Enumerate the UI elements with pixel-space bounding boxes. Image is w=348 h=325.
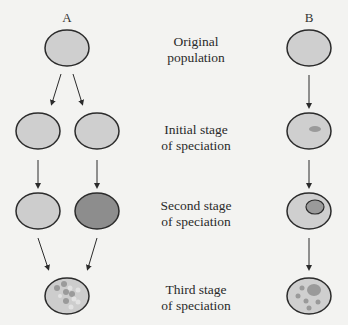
third-population-b <box>287 278 331 314</box>
original-population-a <box>45 30 89 66</box>
second-population-a-left <box>16 193 60 229</box>
third-population-a-mixed <box>45 278 89 314</box>
original-population-b <box>287 30 331 66</box>
arrow-icon <box>52 74 61 103</box>
arrow-icon <box>38 238 48 268</box>
column-a <box>16 30 119 314</box>
initial-population-a-left <box>16 113 60 149</box>
column-b <box>287 30 331 314</box>
second-population-b <box>287 193 331 229</box>
initial-population-b <box>287 113 331 149</box>
speciation-diagram <box>0 0 348 325</box>
second-population-a-right-dark <box>75 193 119 229</box>
arrow-icon <box>73 74 82 103</box>
initial-population-a-right <box>75 113 119 149</box>
arrow-icon <box>88 238 97 268</box>
